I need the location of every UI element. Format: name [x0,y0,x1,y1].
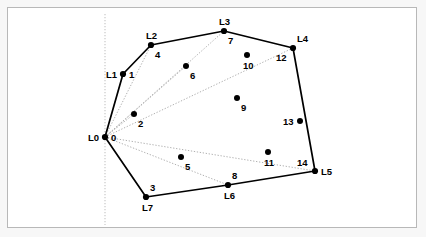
data-point-11[interactable] [265,149,271,155]
data-point-5[interactable] [178,154,184,160]
data-point-1[interactable] [120,71,126,77]
convex-hull-plot [0,0,426,237]
data-point-4[interactable] [148,42,154,48]
pivot-ray [105,137,228,185]
data-point-2[interactable] [131,111,137,117]
pivot-ray [105,48,293,137]
data-point-0[interactable] [102,134,108,140]
data-point-9[interactable] [234,95,240,101]
diagram-root: L00L112L73L2456L37L6891011L41213L514 [0,0,426,237]
data-point-3[interactable] [143,194,149,200]
data-point-10[interactable] [244,52,250,58]
pivot-ray [105,31,224,137]
pivot-ray [105,45,151,137]
data-point-14[interactable] [312,168,318,174]
data-point-8[interactable] [225,182,231,188]
pivot-ray [105,66,186,137]
data-points-layer [102,28,318,200]
data-point-7[interactable] [221,28,227,34]
data-point-6[interactable] [183,63,189,69]
data-point-13[interactable] [297,118,303,124]
pivot-ray [105,137,315,171]
data-point-12[interactable] [290,45,296,51]
